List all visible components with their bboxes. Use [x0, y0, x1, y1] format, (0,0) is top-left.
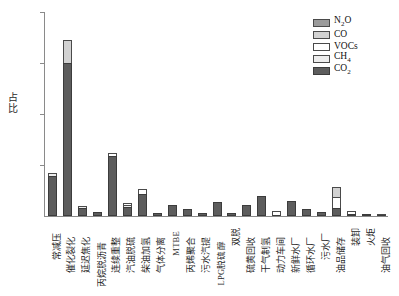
bar-21 — [362, 214, 371, 216]
legend-swatch-icon — [313, 31, 330, 39]
bar-7 — [153, 213, 162, 216]
legend-swatch-icon — [313, 19, 330, 27]
x-tick-label-2: 延迟焦化 — [75, 219, 90, 295]
bar-segment-co2 — [63, 63, 72, 216]
x-tick-label-12: 双脱 — [224, 219, 239, 295]
x-tick-label-11: LPG脱硫醇 — [210, 219, 225, 295]
bar-segment-co2 — [362, 214, 371, 216]
legend-item-3[interactable]: CH4 — [313, 54, 358, 63]
x-axis-line — [44, 216, 388, 217]
x-tick-label-8: MTBE — [165, 219, 180, 295]
legend-label: CO2 — [334, 64, 351, 77]
bar-segment-co2 — [227, 213, 236, 216]
bar-4 — [108, 153, 117, 216]
bar-1 — [63, 40, 72, 216]
bar-5 — [123, 203, 132, 216]
bar-segment-co2 — [183, 209, 192, 216]
bar-segment-co2 — [317, 212, 326, 216]
x-tick-label-6: 柴油加氢 — [135, 219, 150, 295]
y-tick-mark — [40, 114, 44, 115]
bar-segment-co2 — [48, 176, 57, 216]
bar-segment-vocs — [272, 211, 281, 216]
bar-segment-co2 — [287, 201, 296, 216]
legend-item-0[interactable]: N2O — [313, 18, 358, 27]
x-tick-label-10: 污水汽提 — [195, 219, 210, 295]
bar-segment-co2 — [257, 196, 266, 216]
legend-label: N2O — [334, 16, 351, 29]
x-tick-label-18: 污水厂 — [314, 219, 329, 295]
x-tick-label-21: 火炬 — [359, 219, 374, 295]
bar-segment-co2 — [198, 213, 207, 216]
x-tick-label-14: 干气制氢 — [254, 219, 269, 295]
legend-item-2[interactable]: VOCs — [313, 42, 358, 51]
x-tick-label-17: 循环水厂 — [299, 219, 314, 295]
stacked-bar-chart: 占比 0.10.20.30.4 常减压催化裂化延迟焦化丙烷脱沥青连续重整汽油脱硫… — [0, 0, 399, 296]
x-tick-label-22: 油气回收 — [374, 219, 389, 295]
x-axis-tick-labels: 常减压催化裂化延迟焦化丙烷脱沥青连续重整汽油脱硫柴油加氢气体分离MTBE丙烯聚合… — [45, 219, 389, 296]
bar-16 — [287, 201, 296, 216]
bar-segment-co2 — [347, 214, 356, 216]
bar-segment-co2 — [332, 208, 341, 216]
bar-19 — [332, 187, 341, 216]
bar-12 — [227, 213, 236, 216]
legend-item-4[interactable]: CO2 — [313, 66, 358, 75]
bar-segment-co2 — [242, 205, 251, 216]
x-tick-label-9: 丙烯聚合 — [180, 219, 195, 295]
bar-segment-co — [332, 187, 341, 197]
y-tick-mark — [40, 63, 44, 64]
bar-segment-co2 — [78, 208, 87, 216]
x-tick-label-16: 新鲜水厂 — [284, 219, 299, 295]
y-tick-mark — [40, 165, 44, 166]
legend-swatch-icon — [313, 43, 330, 51]
y-tick-mark — [40, 12, 44, 13]
y-axis-title: 占比 — [4, 92, 19, 114]
bar-3 — [93, 212, 102, 216]
bar-segment-co2 — [153, 213, 162, 216]
legend-label: CO — [334, 30, 347, 40]
bar-segment-co2 — [168, 205, 177, 216]
bar-11 — [213, 202, 222, 216]
x-tick-label-text: 油气回收 — [382, 237, 392, 273]
bar-15 — [272, 211, 281, 216]
bar-segment-co2 — [302, 209, 311, 216]
bar-segment-co2 — [138, 194, 147, 216]
bar-segment-co2 — [93, 212, 102, 216]
x-tick-label-3: 丙烷脱沥青 — [90, 219, 105, 295]
bar-segment-co — [63, 40, 72, 63]
legend-label: VOCs — [334, 42, 358, 52]
bar-8 — [168, 205, 177, 216]
bar-10 — [198, 213, 207, 216]
legend-item-1[interactable]: CO — [313, 30, 358, 39]
bar-segment-vocs — [377, 214, 386, 216]
x-tick-label-0: 常减压 — [45, 219, 60, 295]
bar-0 — [48, 173, 57, 216]
x-tick-label-4: 连续重整 — [105, 219, 120, 295]
bar-14 — [257, 196, 266, 216]
bar-segment-vocs — [332, 197, 341, 208]
bar-17 — [302, 209, 311, 216]
x-tick-label-19: 油品储存 — [329, 219, 344, 295]
x-tick-label-1: 催化裂化 — [60, 219, 75, 295]
x-tick-label-5: 汽油脱硫 — [120, 219, 135, 295]
bar-22 — [377, 214, 386, 216]
bar-20 — [347, 211, 356, 216]
x-tick-label-15: 动力车间 — [269, 219, 284, 295]
bar-segment-co2 — [123, 207, 132, 216]
bar-9 — [183, 209, 192, 216]
bar-13 — [242, 205, 251, 216]
bar-segment-co2 — [213, 202, 222, 216]
bar-18 — [317, 212, 326, 216]
bar-6 — [138, 189, 147, 216]
legend-swatch-icon — [313, 67, 330, 75]
bar-2 — [78, 206, 87, 216]
x-tick-label-20: 装卸 — [344, 219, 359, 295]
chart-legend: N2OCOVOCsCH4CO2 — [313, 18, 358, 75]
x-tick-label-7: 气体分离 — [150, 219, 165, 295]
bar-segment-co2 — [108, 156, 117, 216]
legend-swatch-icon — [313, 55, 330, 63]
x-tick-label-13: 硫黄回收 — [239, 219, 254, 295]
